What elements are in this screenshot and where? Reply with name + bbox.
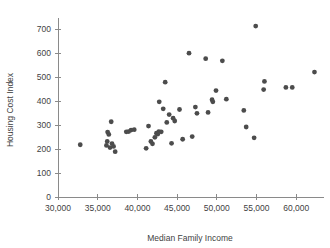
data-point — [312, 70, 317, 75]
x-tick-label: 30,000 — [45, 203, 71, 213]
data-point — [105, 139, 110, 144]
axes-group — [58, 18, 324, 197]
y-tick-label: 200 — [37, 144, 51, 154]
data-point — [290, 85, 295, 90]
y-tick-label: 600 — [37, 48, 51, 58]
y-tick-label: 100 — [37, 168, 51, 178]
data-point — [210, 99, 215, 104]
data-point — [132, 127, 137, 132]
data-point — [113, 149, 118, 154]
data-point — [157, 99, 162, 104]
data-point — [252, 135, 257, 140]
data-point — [244, 125, 249, 130]
x-tick-label: 60,000 — [283, 203, 309, 213]
scatter-chart-figure: 0100200300400500600700 30,00035,00040,00… — [0, 0, 330, 248]
data-point — [177, 107, 182, 112]
scatter-plot-svg: 0100200300400500600700 30,00035,00040,00… — [0, 0, 330, 248]
x-tick-label: 50,000 — [204, 203, 230, 213]
x-tick-label: 35,000 — [85, 203, 111, 213]
y-tick-label: 700 — [37, 24, 51, 34]
y-tick-label: 300 — [37, 120, 51, 130]
data-point — [203, 56, 208, 61]
data-point — [159, 129, 164, 134]
data-points-group — [78, 24, 317, 154]
data-point — [261, 87, 266, 92]
data-point — [109, 119, 114, 124]
x-tick-label: 55,000 — [244, 203, 270, 213]
data-point — [146, 124, 151, 129]
y-tick-label: 0 — [46, 192, 51, 202]
y-axis-ticks: 0100200300400500600700 — [37, 24, 61, 202]
data-point — [106, 132, 111, 137]
data-point — [111, 144, 116, 149]
data-point — [283, 85, 288, 90]
data-point — [214, 88, 219, 93]
x-tick-label: 45,000 — [164, 203, 190, 213]
data-point — [262, 79, 267, 84]
x-axis-title: Median Family Income — [147, 233, 233, 243]
data-point — [195, 111, 200, 116]
data-point — [220, 58, 225, 63]
x-tick-label: 40,000 — [124, 203, 150, 213]
data-point — [167, 112, 172, 117]
data-point — [187, 51, 192, 56]
data-point — [150, 141, 155, 146]
data-point — [190, 134, 195, 139]
data-point — [169, 141, 174, 146]
data-point — [161, 106, 166, 111]
data-point — [163, 80, 168, 85]
data-point — [206, 110, 211, 115]
data-point — [78, 142, 83, 147]
data-point — [164, 120, 169, 125]
data-point — [241, 108, 246, 113]
data-point — [144, 146, 149, 151]
data-point — [253, 24, 258, 29]
y-axis-title: Housing Cost Index — [5, 72, 15, 147]
data-point — [224, 97, 229, 102]
data-point — [180, 137, 185, 142]
y-tick-label: 500 — [37, 72, 51, 82]
data-point — [193, 105, 198, 110]
data-point — [172, 119, 177, 124]
y-tick-label: 400 — [37, 96, 51, 106]
